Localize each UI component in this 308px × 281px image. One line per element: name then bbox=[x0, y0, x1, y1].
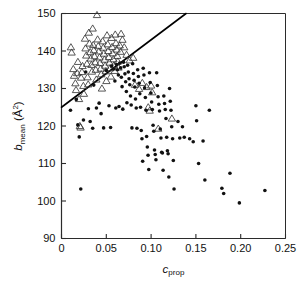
data-point-circle bbox=[157, 102, 161, 106]
data-point-circle bbox=[144, 108, 148, 112]
data-point-circle bbox=[208, 108, 212, 112]
data-point-circle bbox=[128, 83, 132, 87]
data-point-circle bbox=[132, 78, 136, 82]
data-point-circle bbox=[82, 118, 86, 122]
data-point-circle bbox=[145, 135, 149, 139]
data-point-circle bbox=[116, 68, 120, 72]
data-point-circle bbox=[119, 66, 123, 70]
data-point-circle bbox=[121, 107, 125, 111]
data-point-circle bbox=[139, 105, 143, 109]
data-point-circle bbox=[115, 63, 119, 67]
data-point-circle bbox=[166, 152, 170, 156]
data-point-circle bbox=[136, 68, 140, 72]
x-tick-label: 0.10 bbox=[140, 242, 161, 254]
data-point-circle bbox=[150, 100, 154, 104]
data-point-circle bbox=[79, 187, 83, 191]
data-point-circle bbox=[163, 102, 167, 106]
y-axis-title-sub: mean bbox=[18, 124, 27, 144]
data-point-circle bbox=[137, 81, 141, 85]
data-point-circle bbox=[144, 96, 148, 100]
data-point-circle bbox=[84, 70, 88, 74]
data-point-circle bbox=[191, 140, 195, 144]
data-point-circle bbox=[87, 107, 91, 111]
data-point-circle bbox=[91, 126, 95, 130]
data-point-circle bbox=[129, 103, 133, 107]
data-point-circle bbox=[148, 81, 152, 85]
data-point-circle bbox=[114, 106, 118, 110]
data-point-circle bbox=[134, 106, 138, 110]
x-tick-label: 0.20 bbox=[230, 242, 251, 254]
data-point-circle bbox=[139, 129, 143, 133]
data-point-circle bbox=[141, 66, 145, 70]
data-point-circle bbox=[169, 108, 173, 112]
data-point-circle bbox=[107, 104, 111, 108]
data-point-circle bbox=[127, 70, 131, 74]
data-point-circle bbox=[151, 123, 155, 127]
data-point-circle bbox=[148, 71, 152, 75]
data-point-circle bbox=[166, 149, 170, 153]
data-point-circle bbox=[146, 153, 150, 157]
data-point-circle bbox=[158, 109, 162, 113]
data-point-circle bbox=[201, 139, 205, 143]
data-point-circle bbox=[105, 69, 109, 73]
data-point-circle bbox=[161, 168, 165, 172]
data-point-circle bbox=[126, 63, 130, 67]
scatter-plot-figure: 00.050.100.150.200.25 901001101201301401… bbox=[0, 0, 308, 281]
data-point-circle bbox=[132, 72, 136, 76]
data-point-circle bbox=[158, 127, 162, 131]
data-point-circle bbox=[74, 98, 78, 102]
data-point-circle bbox=[149, 91, 153, 95]
data-point-circle bbox=[131, 62, 135, 66]
x-tick-label: 0.25 bbox=[275, 242, 296, 254]
data-point-circle bbox=[117, 73, 121, 77]
data-point-circle bbox=[124, 80, 128, 84]
data-point-circle bbox=[122, 65, 126, 69]
data-point-circle bbox=[133, 85, 137, 89]
data-point-circle bbox=[197, 162, 201, 166]
data-point-circle bbox=[168, 87, 172, 91]
data-point-circle bbox=[238, 201, 242, 205]
data-point-circle bbox=[138, 92, 142, 96]
data-point-circle bbox=[141, 159, 145, 163]
data-point-circle bbox=[263, 189, 267, 193]
data-point-circle bbox=[95, 106, 99, 110]
y-tick-label: 130 bbox=[37, 82, 55, 94]
data-point-circle bbox=[222, 192, 226, 196]
data-point-circle bbox=[137, 75, 141, 79]
data-point-circle bbox=[142, 73, 146, 77]
data-point-circle bbox=[159, 136, 163, 140]
data-point-circle bbox=[151, 108, 155, 112]
x-tick-label: 0 bbox=[58, 242, 64, 254]
y-tick-label: 90 bbox=[43, 232, 55, 244]
data-point-circle bbox=[203, 178, 207, 182]
data-point-circle bbox=[154, 158, 158, 162]
data-point-circle bbox=[161, 151, 165, 155]
data-point-circle bbox=[172, 187, 176, 191]
data-point-circle bbox=[170, 125, 174, 129]
y-tick-label: 100 bbox=[37, 195, 55, 207]
data-point-circle bbox=[165, 135, 169, 139]
y-tick-label: 120 bbox=[37, 120, 55, 132]
data-point-circle bbox=[168, 99, 172, 103]
data-point-circle bbox=[120, 85, 124, 89]
data-point-circle bbox=[171, 137, 175, 141]
data-point-circle bbox=[228, 171, 232, 175]
data-point-circle bbox=[220, 186, 224, 190]
data-point-circle bbox=[176, 120, 180, 124]
data-point-circle bbox=[117, 105, 121, 109]
data-point-circle bbox=[129, 94, 133, 98]
data-point-circle bbox=[153, 153, 157, 157]
data-point-circle bbox=[113, 79, 117, 83]
data-point-circle bbox=[156, 95, 160, 99]
data-point-circle bbox=[76, 123, 80, 127]
data-point-circle bbox=[118, 61, 122, 65]
data-point-circle bbox=[125, 90, 129, 94]
data-point-circle bbox=[163, 108, 167, 112]
data-point-circle bbox=[97, 101, 101, 105]
data-point-circle bbox=[140, 137, 144, 141]
x-axis-title-sub: prop bbox=[168, 268, 185, 277]
data-point-circle bbox=[102, 126, 106, 130]
data-point-circle bbox=[167, 175, 171, 179]
data-point-circle bbox=[153, 148, 157, 152]
data-point-circle bbox=[152, 129, 156, 133]
